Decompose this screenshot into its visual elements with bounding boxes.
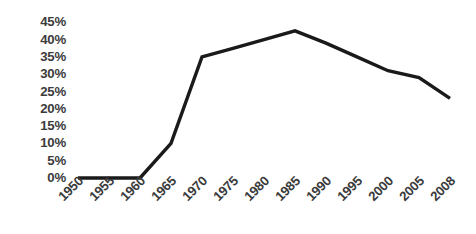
x-tick-label: 1995: [335, 174, 364, 203]
x-tick-label: 1950: [56, 174, 85, 203]
x-tick-label: 2005: [397, 174, 426, 203]
x-tick-label: 1960: [118, 174, 147, 203]
x-tick-label: 1985: [273, 174, 302, 203]
x-tick-label: 1970: [180, 174, 209, 203]
x-tick-label: 2008: [428, 174, 457, 203]
x-tick-label: 1990: [304, 174, 333, 203]
x-tick-label: 2000: [366, 174, 395, 203]
line-chart: 45%40%35%30%25%20%15%10%5%0% 19501955196…: [0, 0, 476, 234]
x-tick-label: 1975: [211, 174, 240, 203]
x-axis: 1950195519601965197019751980198519901995…: [0, 0, 476, 234]
x-tick-label: 1980: [242, 174, 271, 203]
x-tick-label: 1965: [149, 174, 178, 203]
x-tick-label: 1955: [87, 174, 116, 203]
